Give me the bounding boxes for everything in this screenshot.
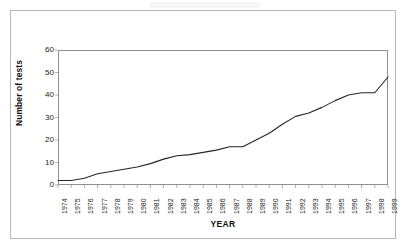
x-axis-tick-label: 1995 [338,198,345,214]
y-axis-tick-labels: 0102030405060 [30,50,54,185]
x-axis-tick-label: 1975 [74,198,81,214]
x-axis-tick-label: 1980 [140,198,147,214]
y-axis-tick-label: 60 [32,46,54,54]
x-axis-tick-label: 1984 [193,198,200,214]
x-axis-tick-label: 1977 [101,198,108,214]
line-chart-plot [58,50,388,185]
y-axis-tick-label: 50 [32,69,54,77]
x-axis-title: YEAR [58,219,388,229]
x-axis-tick-label: 1974 [61,198,68,214]
x-axis-tick-label: 1978 [114,198,121,214]
y-axis-title: Number of tests [14,50,24,136]
x-axis-tick-label: 1994 [325,198,332,214]
chart-figure: 0102030405060 Number of tests 1974197519… [0,0,408,252]
x-axis-tick-label: 1996 [351,198,358,214]
y-axis-tick-label: 0 [32,181,54,189]
scan-artifact [150,2,260,8]
x-axis-tick-label: 1981 [153,198,160,214]
x-axis-tick-label: 1982 [167,198,174,214]
x-axis-tick-label: 1998 [378,198,385,214]
x-axis-tick-label: 1999 [391,198,398,214]
y-axis-tick-label: 40 [32,91,54,99]
x-axis-tick-label: 1990 [272,198,279,214]
x-axis-tick-labels: 1974197519761977197819791980198119821983… [58,188,388,216]
x-axis-tick-label: 1988 [246,198,253,214]
y-axis-tick-label: 30 [32,114,54,122]
data-series-line [58,77,388,181]
x-axis-tick-label: 1997 [365,198,372,214]
x-axis-tick-label: 1987 [233,198,240,214]
x-axis-tick-label: 1983 [180,198,187,214]
x-axis-tick-label: 1991 [285,198,292,214]
x-axis-tick-label: 1976 [87,198,94,214]
x-axis-tick-label: 1979 [127,198,134,214]
x-axis-tick-label: 1985 [206,198,213,214]
x-axis-tick-label: 1992 [299,198,306,214]
y-axis-tick-label: 10 [32,159,54,167]
x-axis-tick-label: 1993 [312,198,319,214]
x-axis-tick-label: 1986 [219,198,226,214]
y-axis-tick-label: 20 [32,136,54,144]
x-axis-tick-label: 1989 [259,198,266,214]
